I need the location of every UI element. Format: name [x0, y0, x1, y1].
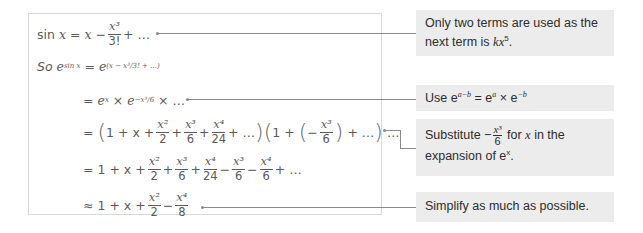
note-text: Simplify as much as possible. [425, 199, 589, 213]
ellipsis: × … [158, 93, 185, 108]
note-fraction: x³6 [493, 124, 501, 147]
paren: ( [97, 121, 106, 143]
math-line-6: ≈ 1 + x + x²2− x⁴8 [83, 188, 190, 222]
math-line-4: = (1 + x + x²2+ x³6+ x⁴24+ …)(1 + (− x³6… [83, 114, 399, 150]
plus: + [199, 125, 209, 140]
denominator: 3! [109, 35, 121, 48]
denominator: 6 [178, 170, 185, 183]
denominator: 6 [494, 136, 500, 147]
numerator: x² [156, 119, 169, 133]
math-line-5: = 1 + x + x²2+ x³6+ x⁴24− x³6− x⁴6+ … [83, 152, 302, 186]
minus: − [95, 27, 105, 42]
so-label: So [37, 59, 53, 74]
fraction: x³3! [108, 21, 121, 47]
minus: − [307, 125, 317, 140]
note-text: . [510, 149, 513, 163]
numerator: x³ [184, 119, 197, 133]
denominator: 8 [178, 206, 185, 219]
denominator: 6 [262, 170, 269, 183]
numerator: x³ [175, 156, 188, 170]
minus: − [163, 198, 173, 213]
connector-line [400, 130, 401, 148]
terms: 1 + x + [97, 198, 145, 213]
paren: ) [255, 121, 264, 143]
note-sup: a−b [458, 90, 471, 99]
denominator: 2 [151, 206, 158, 219]
approx: ≈ [83, 198, 93, 213]
fraction: x²2 [148, 156, 161, 182]
ellipsis: … [387, 125, 400, 140]
denominator: 6 [235, 170, 242, 183]
e-base: e [127, 93, 134, 108]
numerator: x⁴ [260, 156, 273, 170]
numerator: x³ [108, 21, 121, 35]
note-text: for [504, 128, 526, 142]
note-substitute: Substitute −x³6 for x in the expansion o… [416, 119, 614, 176]
equals: = [70, 27, 80, 42]
connector-line [400, 148, 416, 149]
note-simplify: Simplify as much as possible. [416, 192, 614, 222]
exponent: −x³/6 [135, 96, 154, 104]
denominator: 24 [211, 133, 226, 146]
denominator: 24 [203, 170, 218, 183]
numerator: x⁴ [204, 156, 217, 170]
numerator: x³ [232, 156, 245, 170]
note-exponent-rule: Use ea−b = ea × e−b [416, 85, 614, 111]
fraction: x⁴6 [260, 156, 273, 182]
note-text: Use e [425, 91, 458, 105]
ellipsis: + … [123, 27, 150, 42]
e-base: e [97, 93, 104, 108]
equals: = [83, 162, 93, 177]
paren: ) [335, 121, 344, 143]
e-base: e [57, 59, 64, 74]
ellipsis: + … [228, 125, 255, 140]
math-line-1: sin x = x − x³3! + … [37, 20, 150, 48]
note-text: × e [496, 91, 517, 105]
terms: 1 + x + [106, 125, 154, 140]
denominator: 6 [187, 133, 194, 146]
numerator: x² [148, 156, 161, 170]
note-text: = e [471, 91, 492, 105]
numerator: x⁴ [212, 119, 225, 133]
note-text: in the [531, 128, 565, 142]
denominator: 6 [323, 133, 330, 146]
fraction: x⁴8 [175, 192, 188, 218]
fraction: x⁴24 [211, 119, 226, 145]
times: × [113, 93, 123, 108]
minus: − [220, 162, 230, 177]
connector-line [385, 130, 400, 131]
equals: = [83, 125, 93, 140]
terms: 1 + [272, 125, 294, 140]
minus: − [247, 162, 257, 177]
fraction: x⁴24 [203, 156, 218, 182]
plus: + [171, 125, 181, 140]
ellipsis: + … [347, 125, 374, 140]
paren: ( [264, 121, 273, 143]
fraction: x²2 [148, 192, 161, 218]
note-text: . [509, 35, 512, 49]
note-two-terms: Only two terms are used as the next term… [416, 10, 614, 56]
exponent: (x − x³/3! + …) [106, 62, 159, 70]
note-math: kx [493, 35, 504, 49]
fraction: x²2 [156, 119, 169, 145]
denominator: 2 [159, 133, 166, 146]
numerator: x² [148, 192, 161, 206]
note-text: Substitute − [425, 128, 491, 142]
paren: ) [374, 121, 383, 143]
exponent: sin x [64, 62, 81, 70]
connector-line [158, 33, 416, 34]
plus: + [163, 162, 173, 177]
fraction: x³6 [184, 119, 197, 145]
connector-line [188, 99, 416, 100]
math-line-3: = ex × e−x³/6 × … [83, 90, 185, 110]
fraction: x³6 [320, 119, 333, 145]
equals: = [84, 59, 94, 74]
paren: ( [299, 121, 308, 143]
denominator: 2 [151, 170, 158, 183]
math-line-2: So esin x = e(x − x³/3! + …) [37, 56, 160, 76]
connector-line [203, 207, 416, 208]
fraction: x³6 [232, 156, 245, 182]
sin-label: sin [37, 27, 55, 42]
note-sup: −b [517, 90, 526, 99]
ellipsis: + … [275, 162, 302, 177]
